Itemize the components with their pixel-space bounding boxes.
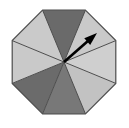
figure-canvas [0, 0, 129, 128]
umbrella-diagram [0, 0, 129, 128]
